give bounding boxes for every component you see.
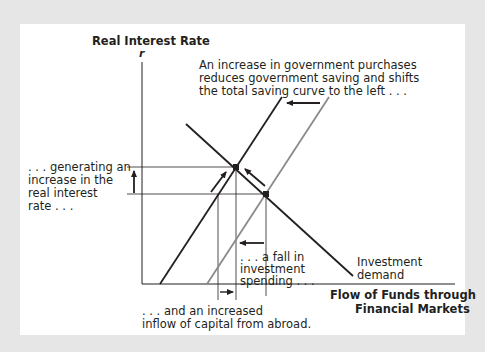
annotation-mid-3: spending . . . xyxy=(240,274,315,288)
y-axis-label: Real Interest Rate xyxy=(92,34,210,48)
annotation-top-3: the total saving curve to the left . . . xyxy=(199,84,407,98)
x-axis-label-2: Financial Markets xyxy=(355,302,470,316)
movement-along-saving-arrow xyxy=(211,172,226,192)
annotation-top-2: reduces government saving and shifts xyxy=(199,71,419,85)
x-axis-label-1: Flow of Funds through xyxy=(330,288,476,302)
annotation-left-2: increase in the xyxy=(28,173,113,187)
annotation-bottom-2: inflow of capital from abroad. xyxy=(142,317,311,331)
y-axis-symbol: r xyxy=(139,47,144,61)
new-equilibrium-point xyxy=(233,164,239,170)
annotation-left-4: rate . . . xyxy=(28,199,73,213)
annotation-top-1: An increase in government purchases xyxy=(199,58,417,72)
annotation-left-3: real interest xyxy=(28,186,98,200)
original-equilibrium-point xyxy=(263,191,269,197)
annotation-bottom-1: . . . and an increased xyxy=(142,304,263,318)
movement-along-demand-arrow xyxy=(245,169,265,186)
investment-demand-label-2: demand xyxy=(357,268,404,282)
investment-demand-label-1: Investment xyxy=(357,255,422,269)
annotation-left-1: . . . generating an xyxy=(28,160,131,174)
